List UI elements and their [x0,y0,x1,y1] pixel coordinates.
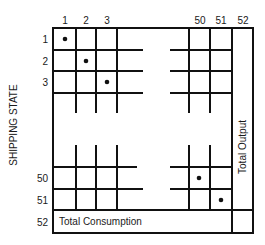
total-consumption-label: Total Consumption [59,216,142,227]
diagonal-dot-1 [63,37,68,42]
total-output-label: Total Output [237,120,248,174]
column-label: 50 [194,15,206,26]
diagonal-dot-2 [84,59,89,64]
row-label: 3 [42,77,48,88]
column-label: 1 [62,15,68,26]
row-label: 2 [42,56,48,67]
matrix-frame [53,28,253,233]
column-label: 51 [215,15,227,26]
diagonal-dot-50 [197,176,202,181]
diagonal-dot-51 [219,198,224,203]
row-label: 51 [37,195,49,206]
row-label: 1 [42,34,48,45]
row-label: 50 [37,173,49,184]
column-label: 3 [104,15,110,26]
column-label: 52 [237,15,249,26]
column-label: 2 [83,15,89,26]
row-label: 52 [37,217,49,228]
row-axis-label: SHIPPING STATE [8,84,19,166]
diagonal-dot-3 [105,80,110,85]
input-output-matrix-diagram: 1 2 3 50 51 52 1 2 3 50 51 52 SHIPPING S… [0,0,265,245]
